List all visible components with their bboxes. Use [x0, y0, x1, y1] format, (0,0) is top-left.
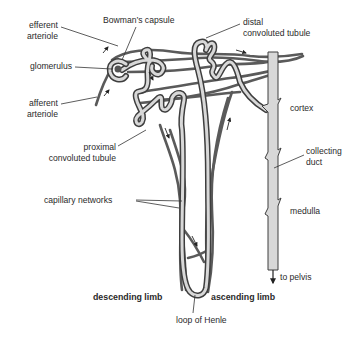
- arrow-capillary-up: [227, 118, 230, 130]
- label-medulla: medulla: [290, 206, 320, 217]
- label-loop-of-henle: loop of Henle: [176, 315, 227, 326]
- label-proximal-line2: convoluted tubule: [20, 153, 116, 164]
- arrow-efferent: [103, 47, 108, 53]
- label-to-pelvis: to pelvis: [280, 272, 312, 283]
- label-efferent-line1: efferent: [14, 20, 58, 31]
- label-capillary-networks: capillary networks: [44, 195, 112, 206]
- label-collecting-line1: collecting: [306, 146, 342, 157]
- label-distal-line1: distal: [243, 17, 310, 28]
- arrow-afferent: [104, 90, 109, 96]
- label-proximal-line1: proximal: [20, 142, 116, 153]
- label-glomerulus: glomerulus: [8, 61, 72, 72]
- label-collecting-line2: duct: [306, 157, 342, 168]
- label-bowmans-capsule: Bowman’s capsule: [103, 15, 175, 26]
- label-efferent-arteriole: efferent arteriole: [14, 20, 58, 42]
- collecting-duct-shape: [262, 52, 281, 270]
- glomerulus-shape: [115, 66, 122, 73]
- label-ascending-limb: ascending limb: [211, 292, 275, 303]
- label-proximal-convoluted-tubule: proximal convoluted tubule: [20, 142, 116, 164]
- label-afferent-arteriole: afferent arteriole: [14, 98, 58, 120]
- label-cortex: cortex: [290, 103, 313, 114]
- nephron-illustration: [0, 0, 362, 338]
- arrow-distal: [236, 50, 246, 53]
- label-distal-line2: convoluted tubule: [243, 28, 310, 39]
- label-afferent-line1: afferent: [14, 98, 58, 109]
- label-distal-convoluted-tubule: distal convoluted tubule: [243, 17, 310, 39]
- label-efferent-line2: arteriole: [14, 31, 58, 42]
- nephron-diagram: efferent arteriole Bowman’s capsule dist…: [0, 0, 362, 338]
- arrow-capillary-down: [165, 128, 169, 138]
- label-afferent-line2: arteriole: [14, 109, 58, 120]
- label-descending-limb: descending limb: [93, 292, 162, 303]
- label-collecting-duct: collecting duct: [306, 146, 342, 168]
